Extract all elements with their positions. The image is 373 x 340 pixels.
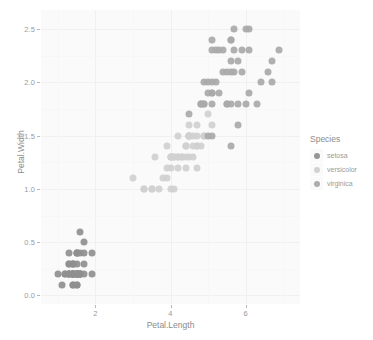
x-tick-mark: [95, 305, 96, 308]
x-tick-label: 2: [93, 309, 97, 318]
y-tick-mark: [37, 189, 40, 190]
legend-item-versicolor[interactable]: versicolor: [310, 163, 357, 176]
x-tick-mark: [246, 305, 247, 308]
data-point-virginica: [208, 36, 215, 43]
data-point-versicolor: [197, 143, 204, 150]
scatter-plot-figure: 0.00.51.01.52.02.5 246 Petal.Length Peta…: [0, 0, 373, 340]
data-point-virginica: [227, 68, 234, 75]
y-tick-label: 2.5: [7, 25, 35, 34]
y-tick-mark: [37, 82, 40, 83]
legend-label: versicolor: [327, 166, 357, 173]
data-point-versicolor: [175, 164, 182, 171]
data-point-virginica: [208, 100, 215, 107]
legend-label: virginica: [327, 180, 353, 187]
gridline-vertical: [246, 10, 247, 304]
legend-key: [310, 177, 323, 190]
legend-swatch-virginica: [314, 181, 320, 187]
data-point-setosa: [77, 228, 84, 235]
y-tick-mark: [37, 242, 40, 243]
data-point-virginica: [197, 100, 204, 107]
data-point-versicolor: [193, 132, 200, 139]
x-tick-mark: [171, 305, 172, 308]
data-point-virginica: [268, 79, 275, 86]
gridline-vertical: [95, 10, 96, 304]
data-point-setosa: [81, 260, 88, 267]
data-point-virginica: [201, 79, 208, 86]
data-point-virginica: [220, 68, 227, 75]
data-point-virginica: [238, 47, 245, 54]
x-tick-label: 4: [168, 309, 172, 318]
gridline-vertical-minor: [133, 10, 134, 304]
data-point-versicolor: [193, 164, 200, 171]
data-point-virginica: [216, 90, 223, 97]
data-point-virginica: [212, 47, 219, 54]
data-point-virginica: [231, 47, 238, 54]
data-point-versicolor: [167, 164, 174, 171]
legend-items: setosaversicolorvirginica: [310, 149, 357, 190]
data-point-versicolor: [163, 143, 170, 150]
x-axis-title: Petal.Length: [41, 320, 300, 330]
y-tick-label: 2.0: [7, 78, 35, 87]
data-point-versicolor: [152, 154, 159, 161]
data-point-virginica: [253, 100, 260, 107]
x-tick-label: 6: [243, 309, 247, 318]
data-point-versicolor: [178, 154, 185, 161]
data-point-setosa: [69, 281, 76, 288]
data-point-versicolor: [159, 175, 166, 182]
gridline-vertical-minor: [208, 10, 209, 304]
data-point-virginica: [227, 36, 234, 43]
data-point-setosa: [88, 271, 95, 278]
data-point-setosa: [88, 249, 95, 256]
data-point-virginica: [238, 68, 245, 75]
data-point-virginica: [212, 79, 219, 86]
legend-swatch-versicolor: [314, 167, 320, 173]
data-point-versicolor: [190, 143, 197, 150]
data-point-virginica: [208, 132, 215, 139]
data-point-versicolor: [171, 154, 178, 161]
data-point-virginica: [205, 90, 212, 97]
legend-key: [310, 163, 323, 176]
data-point-virginica: [231, 26, 238, 33]
y-tick-mark: [37, 136, 40, 137]
data-point-versicolor: [156, 185, 163, 192]
data-point-virginica: [257, 79, 264, 86]
data-point-setosa: [69, 260, 76, 267]
data-point-virginica: [227, 58, 234, 65]
data-point-versicolor: [193, 122, 200, 129]
gridline-vertical-minor: [58, 10, 59, 304]
data-point-versicolor: [182, 164, 189, 171]
legend: Species setosaversicolorvirginica: [310, 134, 357, 191]
data-point-setosa: [69, 271, 76, 278]
y-tick-label: 0.0: [7, 291, 35, 300]
data-point-setosa: [81, 239, 88, 246]
legend-label: setosa: [327, 152, 348, 159]
data-point-versicolor: [129, 175, 136, 182]
data-point-versicolor: [186, 132, 193, 139]
gridline-horizontal-minor: [41, 56, 300, 57]
y-tick-mark: [37, 29, 40, 30]
data-point-setosa: [58, 281, 65, 288]
legend-item-virginica[interactable]: virginica: [310, 177, 357, 190]
data-point-versicolor: [186, 122, 193, 129]
data-point-versicolor: [208, 122, 215, 129]
data-point-virginica: [223, 100, 230, 107]
data-point-setosa: [66, 249, 73, 256]
data-point-virginica: [246, 26, 253, 33]
data-point-setosa: [73, 249, 80, 256]
data-point-virginica: [227, 143, 234, 150]
data-point-virginica: [268, 58, 275, 65]
data-point-virginica: [276, 47, 283, 54]
y-axis-title: Petal.Width: [16, 92, 26, 212]
data-point-virginica: [235, 122, 242, 129]
data-point-virginica: [220, 47, 227, 54]
data-point-virginica: [265, 68, 272, 75]
gridline-horizontal-minor: [41, 216, 300, 217]
y-tick-label: 0.5: [7, 238, 35, 247]
data-point-versicolor: [148, 185, 155, 192]
data-point-virginica: [186, 111, 193, 118]
legend-item-setosa[interactable]: setosa: [310, 149, 357, 162]
data-point-virginica: [235, 58, 242, 65]
legend-title: Species: [310, 134, 357, 144]
y-tick-mark: [37, 295, 40, 296]
data-point-versicolor: [141, 185, 148, 192]
